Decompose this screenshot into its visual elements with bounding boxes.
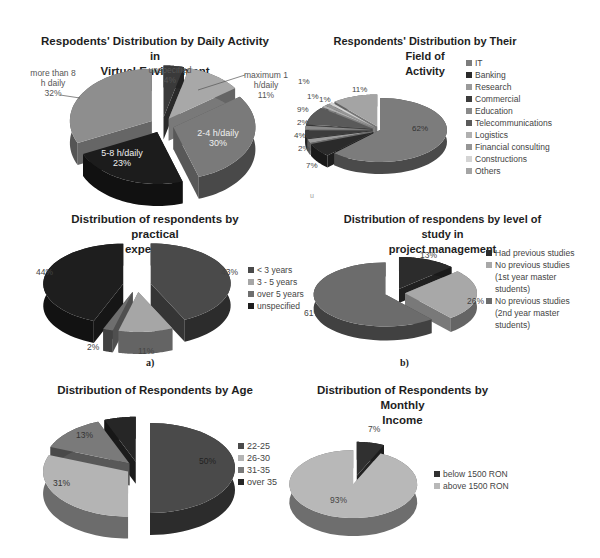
data-label: 11% (352, 85, 367, 94)
legend-swatch (466, 156, 472, 162)
legend-label: 26-30 (247, 452, 270, 464)
legend-label: over 5 years (257, 288, 304, 300)
data-label: 93% (330, 495, 347, 505)
chart-practical-experience: Distribution of respondents by practical… (0, 200, 300, 380)
pie-slice (289, 450, 417, 518)
legend-item: above 1500 RON (434, 480, 509, 492)
legend-swatch (434, 471, 440, 477)
legend-label: below 1500 RON (443, 468, 508, 480)
legend-swatch (466, 108, 472, 114)
legend-item: Education (466, 105, 552, 117)
chart-study-level: Distribution of respondens by level of s… (300, 200, 600, 380)
legend-swatch (486, 262, 492, 268)
legend-label: Logistics (475, 129, 508, 141)
data-label: 13% (76, 430, 93, 440)
legend-label: Constructions (475, 153, 527, 165)
legend-swatch (238, 467, 244, 473)
data-label: 1% (319, 95, 331, 104)
legend-label: Financial consulting (475, 141, 550, 153)
legend-swatch (486, 250, 492, 256)
legend-item: 26-30 (238, 452, 277, 464)
legend-item: No previous studies (2nd year master stu… (486, 295, 576, 331)
legend-item: IT (466, 57, 552, 69)
legend: Had previous studiesNo previous studies … (486, 247, 576, 331)
data-label: 43% (221, 267, 238, 277)
legend-label: No previous studies (1st year master stu… (495, 259, 576, 295)
legend-swatch (466, 84, 472, 90)
data-label: 11% (138, 346, 154, 356)
subfigure-label: b) (400, 357, 409, 368)
legend-swatch (486, 298, 492, 304)
legend-swatch (248, 303, 254, 309)
legend-label: over 35 (247, 476, 277, 488)
legend-swatch (238, 479, 244, 485)
legend-label: IT (475, 57, 483, 69)
data-label: 7% (306, 161, 318, 170)
data-label: 44% (36, 267, 53, 277)
legend-label: Banking (475, 69, 506, 81)
legend-label: 31-35 (247, 464, 270, 476)
legend-item: unspecified (248, 300, 304, 312)
pie-slice-side (103, 329, 113, 353)
legend: below 1500 RONabove 1500 RON (434, 468, 509, 492)
legend-item: 3 - 5 years (248, 276, 304, 288)
legend-swatch (466, 132, 472, 138)
legend-item: over 5 years (248, 288, 304, 300)
legend-item: Telecommunications (466, 117, 552, 129)
legend-item: Had previous studies (486, 247, 576, 259)
chart-field-of-activity: Respondents' Distribution by Their Field… (300, 0, 600, 200)
legend: < 3 years3 - 5 yearsover 5 yearsunspecif… (248, 264, 304, 312)
legend-item: 22-25 (238, 440, 277, 452)
legend-label: Telecommunications (475, 117, 552, 129)
data-label: 2% (298, 144, 310, 153)
data-label: 26% (467, 296, 484, 306)
legend-label: Education (475, 105, 513, 117)
legend-label: No previous studies (2nd year master stu… (495, 295, 576, 331)
legend-item: over 35 (238, 476, 277, 488)
legend-swatch (238, 443, 244, 449)
data-label: 1% (307, 92, 319, 101)
subfigure-label: a) (146, 357, 154, 368)
data-label: 31% (53, 478, 70, 488)
legend-label: Others (475, 165, 501, 177)
legend-item: Banking (466, 69, 552, 81)
legend-label: Commercial (475, 93, 520, 105)
legend-item: Commercial (466, 93, 552, 105)
data-label: 9% (297, 105, 309, 114)
legend-swatch (434, 483, 440, 489)
legend-item: Constructions (466, 153, 552, 165)
data-label: 61% (304, 308, 321, 318)
legend-item: Financial consulting (466, 141, 552, 153)
chart-age: Distribution of Respondents by Age 50% 3… (0, 380, 300, 558)
legend-label: Research (475, 81, 511, 93)
stray-mark: u (310, 192, 314, 199)
legend-swatch (248, 267, 254, 273)
legend-item: Research (466, 81, 552, 93)
legend-swatch (466, 168, 472, 174)
legend-label: Had previous studies (495, 247, 574, 259)
legend-swatch (466, 120, 472, 126)
legend-label: above 1500 RON (443, 480, 509, 492)
data-label: 50% (199, 456, 216, 466)
legend-label: 3 - 5 years (257, 276, 297, 288)
legend-item: below 1500 RON (434, 468, 509, 480)
data-label: 2% (87, 342, 99, 352)
legend-item: Logistics (466, 129, 552, 141)
data-label: 62% (412, 124, 428, 133)
legend-label: 22-25 (247, 440, 270, 452)
data-label: 13% (420, 250, 437, 260)
legend-label: unspecified (257, 300, 300, 312)
legend: ITBankingResearchCommercialEducationTele… (466, 57, 552, 177)
legend-item: No previous studies (1st year master stu… (486, 259, 576, 295)
legend-swatch (466, 96, 472, 102)
legend-item: < 3 years (248, 264, 304, 276)
legend-swatch (248, 279, 254, 285)
data-label: 7% (368, 424, 380, 434)
legend-swatch (238, 455, 244, 461)
data-label: 4% (294, 131, 306, 140)
legend-swatch (466, 144, 472, 150)
chart-daily-activity: Respodents' Distribution by Daily Activi… (0, 0, 300, 200)
legend: 22-2526-3031-35over 35 (238, 440, 277, 488)
data-label: 1% (298, 77, 310, 86)
legend-swatch (248, 291, 254, 297)
